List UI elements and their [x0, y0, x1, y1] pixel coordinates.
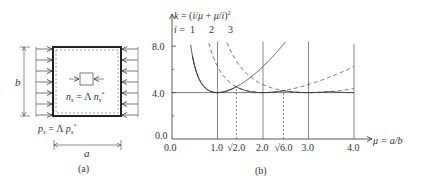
curve-i3	[227, 43, 354, 93]
plate-outline	[53, 47, 121, 116]
caption-a: (a)	[78, 163, 89, 175]
stress-element	[80, 73, 93, 85]
buckling-figure: nx = Λ nx* b px = Λ px* a (a) 0.04.08.0 …	[0, 0, 425, 187]
x-tick-label: √2.0	[227, 142, 245, 153]
series-labels: 123i =	[174, 24, 233, 35]
envelope-curve	[193, 56, 355, 92]
caption-b: (b)	[255, 165, 267, 177]
inner-force-label: nx = Λ nx*	[66, 91, 104, 103]
x-axis-label: μ = a/b	[372, 135, 403, 146]
x-tick-label: 1.0	[211, 142, 224, 153]
dim-a-label: a	[84, 147, 90, 159]
curve-group	[191, 42, 354, 93]
x-tick-label: 2.0	[256, 142, 269, 153]
series-label-prefix: i =	[174, 24, 185, 35]
y-tick-label: 8.0	[152, 41, 165, 52]
y-tick-label: 4.0	[152, 88, 165, 99]
plate-diagram: nx = Λ nx* b px = Λ px* a (a)	[15, 47, 138, 175]
x-tick-label: 4.0	[347, 142, 360, 153]
y-tick-label: 0.0	[155, 130, 168, 141]
series-label: 1	[190, 24, 195, 35]
right-load-arrows	[122, 49, 138, 115]
buckling-chart: 0.04.08.0 0.01.0√2.02.0√6.03.04.0 k = (i…	[152, 10, 403, 177]
dim-b-label: b	[15, 76, 21, 88]
plate-inner-dashed	[56, 50, 118, 113]
vertical-reference-lines	[218, 42, 355, 139]
series-label: 3	[228, 24, 233, 35]
left-load-arrows	[36, 49, 52, 115]
x-tick-label: 0.0	[164, 142, 177, 153]
load-label: px = Λ px*	[37, 123, 76, 135]
x-axis-ticks: 0.01.0√2.02.0√6.03.04.0	[164, 142, 360, 153]
figure-canvas: nx = Λ nx* b px = Λ px* a (a) 0.04.08.0 …	[0, 0, 425, 187]
series-label: 2	[209, 24, 214, 35]
y-axis-label: k = (i/μ + μ/i)2	[174, 10, 231, 22]
x-tick-label: 3.0	[302, 142, 315, 153]
curve-i1	[191, 42, 286, 93]
x-tick-label: √6.0	[274, 142, 292, 153]
